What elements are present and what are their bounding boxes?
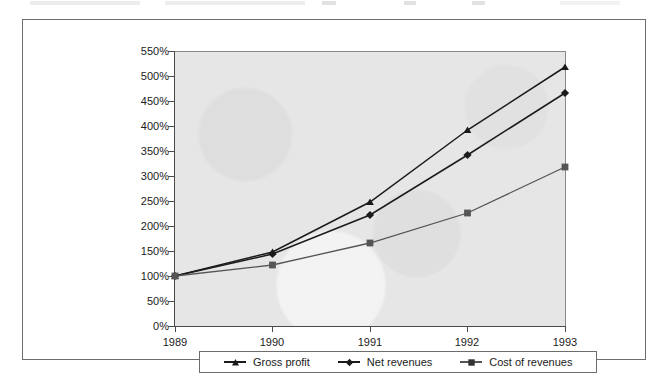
legend-item-cost-of-revenues: Cost of revenues xyxy=(460,356,572,368)
triangle-marker-icon xyxy=(224,357,246,367)
legend-item-gross-profit: Gross profit xyxy=(224,356,310,368)
diamond-data-point xyxy=(366,211,374,219)
triangle-data-point xyxy=(561,63,569,70)
legend-label: Gross profit xyxy=(253,356,310,368)
square-data-point xyxy=(269,262,276,269)
series-line-cost-of-revenues xyxy=(175,167,565,276)
chart-frame: 550% 500% 450% 400% 350% 300% 250% 200% … xyxy=(22,19,646,360)
series-line-net-revenues xyxy=(175,93,565,276)
chart-legend: Gross profit Net revenues Cost of revenu… xyxy=(199,351,597,373)
diamond-data-point xyxy=(561,89,569,97)
legend-label: Net revenues xyxy=(367,356,432,368)
square-data-point xyxy=(172,273,179,280)
scan-artifact-band xyxy=(0,0,668,9)
legend-label: Cost of revenues xyxy=(489,356,572,368)
series-layer xyxy=(23,20,647,361)
diamond-marker-icon xyxy=(338,357,360,367)
square-data-point xyxy=(464,210,471,217)
legend-item-net-revenues: Net revenues xyxy=(338,356,432,368)
square-data-point xyxy=(562,164,569,171)
square-marker-icon xyxy=(460,357,482,367)
square-data-point xyxy=(367,240,374,247)
chart-page: 550% 500% 450% 400% 350% 300% 250% 200% … xyxy=(0,0,668,380)
diamond-data-point xyxy=(463,151,471,159)
